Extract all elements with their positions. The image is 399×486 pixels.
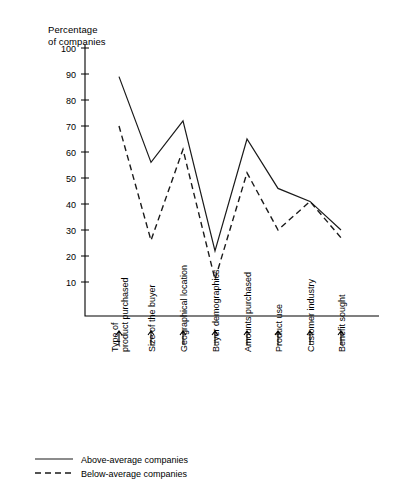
y-tick-label: 20 [66, 252, 76, 262]
y-tick-label: 70 [66, 122, 76, 132]
y-tick-label: 50 [66, 174, 76, 184]
y-tick-label: 100 [61, 44, 76, 54]
category-label: Customer industry [306, 278, 316, 352]
category-label: product purchased [120, 277, 130, 352]
chart-axes [85, 44, 379, 316]
y-tick-label: 40 [66, 200, 76, 210]
legend-label: Above-average companies [81, 455, 189, 465]
y-tick-label: 60 [66, 148, 76, 158]
y-axis-title-line2: of companies [48, 36, 106, 47]
series-line-2 [119, 126, 341, 279]
chart-canvas: Percentageof companies102030405060708090… [0, 0, 399, 486]
y-axis-title-line1: Percentage [48, 24, 98, 35]
category-label: Size of the buyer [147, 284, 157, 352]
legend-label: Below-average companies [81, 469, 188, 479]
category-label: Type of [110, 322, 120, 352]
category-label: Product use [274, 304, 284, 352]
category-label: Buyer demographics [211, 269, 221, 352]
y-tick-label: 30 [66, 226, 76, 236]
segmentation-bases-line-chart: Percentageof companies102030405060708090… [0, 0, 399, 486]
category-label: Benefit sought [337, 294, 347, 352]
x-axis-categories: Type ofproduct purchasedSize of the buye… [110, 265, 347, 352]
series-line-1 [119, 77, 341, 251]
y-tick-label: 90 [66, 70, 76, 80]
chart-legend: Above-average companiesBelow-average com… [35, 455, 189, 479]
y-tick-label: 80 [66, 96, 76, 106]
category-label: Amounts purchased [243, 272, 253, 352]
y-tick-label: 10 [66, 278, 76, 288]
category-label: Geographical location [179, 265, 189, 352]
